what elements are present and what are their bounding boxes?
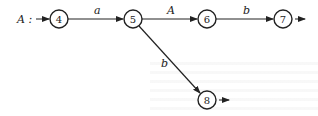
state-node-5: 5 xyxy=(124,10,142,28)
edge-4-5: a xyxy=(68,4,123,19)
state-node-7: 7 xyxy=(274,10,292,28)
edge-label-6-7: b xyxy=(243,4,250,17)
edge-label-4-5: a xyxy=(94,4,101,17)
edge-label-5-6: A xyxy=(166,4,175,17)
edge-6-7: b xyxy=(216,4,273,19)
node-label: 4 xyxy=(56,14,62,25)
state-node-8: 8 xyxy=(198,91,216,109)
node-label: 5 xyxy=(130,14,136,25)
state-node-6: 6 xyxy=(198,10,216,28)
node-label: 6 xyxy=(204,14,210,25)
start-label: A : xyxy=(16,13,32,26)
edge-5-8: b xyxy=(139,26,200,93)
node-label: 7 xyxy=(280,14,286,25)
edge-5-6: A xyxy=(142,4,197,19)
state-node-4: 4 xyxy=(50,10,68,28)
edge-label-5-8: b xyxy=(161,57,168,70)
node-label: 8 xyxy=(204,95,210,106)
state-diagram: A : a A b b 4 5 6 7 8 xyxy=(0,0,318,116)
